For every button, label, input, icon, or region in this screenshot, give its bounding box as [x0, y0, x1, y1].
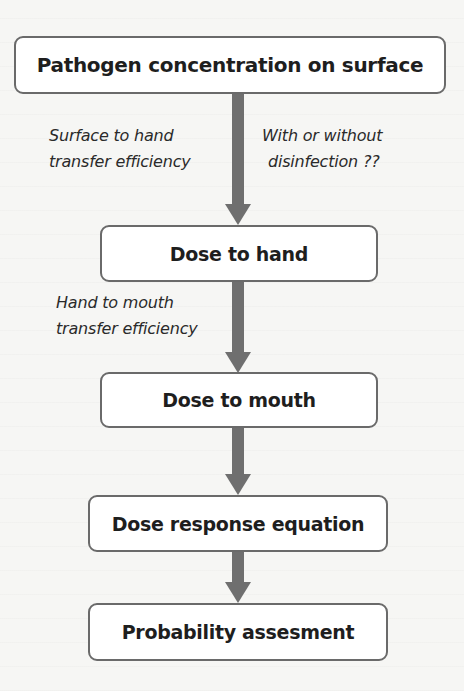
- node-dose-to-hand: Dose to hand: [100, 225, 378, 282]
- node-pathogen-concentration: Pathogen concentration on surface: [14, 36, 446, 94]
- label-line: transfer efficiency: [56, 316, 198, 342]
- arrow-down-icon: [224, 94, 252, 226]
- label-line: transfer efficiency: [49, 149, 191, 175]
- arrow-down-icon: [224, 552, 252, 604]
- edge-label-surface-to-hand: Surface to hand transfer efficiency: [49, 123, 191, 175]
- node-label: Dose to mouth: [162, 389, 315, 411]
- label-line: Surface to hand: [49, 123, 191, 149]
- edge-label-disinfection: With or without disinfection ??: [262, 123, 382, 175]
- node-dose-to-mouth: Dose to mouth: [100, 372, 378, 428]
- arrow-down-icon: [224, 282, 252, 374]
- node-dose-response-equation: Dose response equation: [88, 495, 388, 552]
- label-line: Hand to mouth: [56, 290, 198, 316]
- label-line: disinfection ??: [262, 149, 382, 175]
- edge-label-hand-to-mouth: Hand to mouth transfer efficiency: [56, 290, 198, 342]
- node-label: Dose to hand: [170, 243, 308, 265]
- node-label: Dose response equation: [112, 513, 365, 535]
- node-label: Pathogen concentration on surface: [37, 53, 424, 77]
- label-line: With or without: [262, 123, 382, 149]
- arrow-down-icon: [224, 428, 252, 496]
- node-label: Probability assesment: [122, 621, 355, 643]
- node-probability-assessment: Probability assesment: [88, 603, 388, 661]
